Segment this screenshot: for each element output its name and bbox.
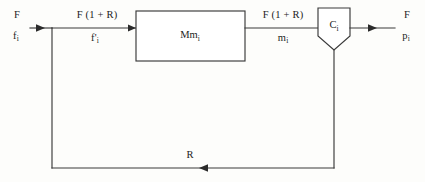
block-diagram: F fi F (1 + R) f'i F (1 + R) mi F pi R M… (0, 0, 425, 182)
product-stream-label-bottom: pi (402, 31, 410, 43)
diagram-canvas (0, 0, 425, 182)
feed-inlet-arrowhead (36, 24, 45, 32)
recycle-arrowhead (199, 164, 208, 172)
separator-block-label: Ci (329, 19, 338, 32)
feed-stream-label-top: F (14, 10, 20, 22)
feed-stream-label-bottom: fi (13, 31, 19, 43)
mixer-block-label: Mmi (180, 29, 200, 42)
combined-feed-label-bottom: f'i (91, 33, 99, 45)
mixer-outlet-label-bottom: mi (278, 33, 288, 45)
product-outlet-arrowhead (368, 24, 377, 32)
mixer-outlet-label-top: F (1 + R) (263, 10, 304, 22)
combined-feed-arrowhead (128, 24, 136, 31)
recycle-stream-label: R (186, 150, 193, 162)
product-stream-label-top: F (404, 10, 410, 22)
combined-feed-label-top: F (1 + R) (77, 10, 118, 22)
